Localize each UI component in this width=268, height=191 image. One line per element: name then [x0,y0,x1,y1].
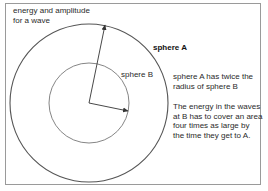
sphere-b-radius-arrow [89,103,128,111]
note-line: the time they get to A. [173,131,262,141]
note-line: The energy in the waves [173,102,262,112]
title-line: for a wave [13,16,90,26]
note-line: sphere A has twice the [173,72,253,82]
radius-note: sphere A has twice the radius of sphere … [173,72,253,91]
sphere-a-label: sphere A [153,43,187,53]
sphere-a-radius-arrow [89,25,105,103]
energy-note: The energy in the waves at B has to cove… [173,102,262,140]
concentric-spheres-diagram [0,0,268,191]
note-line: four times as large by [173,121,262,131]
sphere-b-label: sphere B [121,70,153,80]
note-line: at B has to cover an area [173,112,262,122]
note-line: radius of sphere B [173,82,253,92]
diagram-title: energy and amplitude for a wave [13,6,90,25]
title-line: energy and amplitude [13,6,90,16]
